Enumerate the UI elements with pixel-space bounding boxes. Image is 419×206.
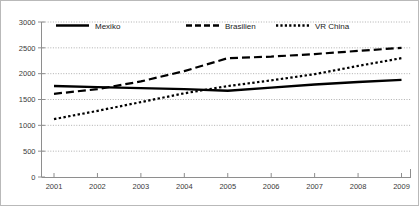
y-tick-label-3000: 3000 [19,18,36,27]
y-axis-tick-labels: 050010001500200025003000 [19,18,36,182]
line-chart: 050010001500200025003000 200120022003200… [1,1,419,206]
x-axis-tick-labels: 200120022003200420052006200720082009 [46,182,410,191]
x-tick-label-2008: 2008 [350,182,367,191]
x-tick-label-2009: 2009 [393,182,410,191]
x-tick-label-2007: 2007 [306,182,323,191]
x-tick-label-2001: 2001 [46,182,63,191]
y-tick-label-0: 0 [31,173,35,182]
legend-label-vrchina: VR China [315,22,350,31]
series-line-brasilien [54,48,402,94]
x-tick-label-2004: 2004 [176,182,193,191]
x-tick-label-2003: 2003 [133,182,150,191]
chart-page: 050010001500200025003000 200120022003200… [0,0,419,206]
legend-label-mexiko: Mexiko [95,22,121,31]
data-series-group [54,48,402,119]
y-tick-label-1000: 1000 [19,121,36,130]
y-tick-label-2000: 2000 [19,69,36,78]
legend-label-brasilien: Brasilien [225,22,256,31]
y-tick-label-1500: 1500 [19,95,36,104]
x-tickmark-group [54,173,402,177]
x-tick-label-2002: 2002 [89,182,106,191]
series-line-mexiko [54,80,402,91]
x-tick-label-2006: 2006 [263,182,280,191]
chart-legend: MexikoBrasilienVR China [56,22,350,31]
y-tick-label-2500: 2500 [19,44,36,53]
x-tick-label-2005: 2005 [219,182,236,191]
y-tick-label-500: 500 [23,147,36,156]
